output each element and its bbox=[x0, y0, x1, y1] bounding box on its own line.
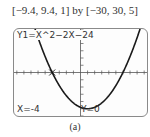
trace-x-value: X=-4 bbox=[17, 104, 40, 114]
graph-plot bbox=[14, 29, 147, 116]
trace-y-value: Y=0 bbox=[81, 104, 100, 114]
figure-caption: (a) bbox=[0, 121, 150, 132]
parabola-curve bbox=[35, 29, 141, 109]
calculator-screen: Y1=X^2−2X−24 X=-4 Y=0 bbox=[13, 28, 148, 117]
equation-label: Y1=X^2−2X−24 bbox=[17, 30, 94, 40]
window-settings-label: [−9.4, 9.4, 1] by [−30, 30, 5] bbox=[0, 4, 150, 16]
